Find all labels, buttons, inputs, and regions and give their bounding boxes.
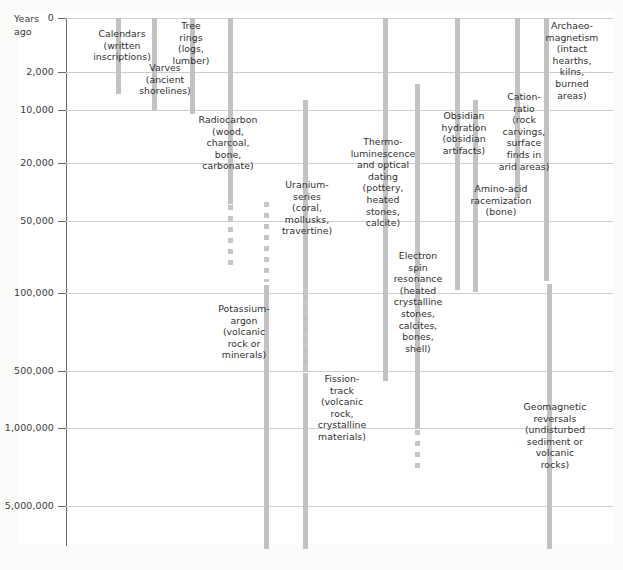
- gridline: [66, 506, 613, 507]
- method-label-line: Geomagnetic: [506, 401, 604, 413]
- method-label-line: Electron: [378, 250, 458, 262]
- y-tick-label: 20,000: [2, 158, 54, 168]
- tick-mark: [58, 18, 66, 19]
- method-label-line: mollusks,: [268, 214, 346, 226]
- method-label-line: calcite): [340, 217, 426, 229]
- method-label-line: (undisturbed: [506, 424, 604, 436]
- y-axis-line: [66, 18, 67, 546]
- method-label-line: (coral,: [268, 202, 346, 214]
- y-axis-title-line2: ago: [14, 26, 39, 39]
- method-label-line: calcites,: [378, 320, 458, 332]
- method-label-varves: Varves(ancientshorelines): [126, 62, 204, 97]
- y-tick-label: 0: [2, 13, 54, 23]
- method-label-line: stones,: [378, 308, 458, 320]
- bar-radiocarbon: [228, 18, 233, 204]
- method-label-line: (volcanic: [300, 396, 384, 408]
- tick-mark: [58, 110, 66, 111]
- method-label-line: (intact: [532, 43, 612, 55]
- method-label-line: (volcanic: [200, 326, 288, 338]
- method-label-line: hearths,: [532, 55, 612, 67]
- tick-mark: [58, 371, 66, 372]
- method-label-line: (pottery,: [340, 182, 426, 194]
- method-label-line: burned: [532, 78, 612, 90]
- bar-dashed-electron-spin-resonance: [415, 430, 420, 470]
- method-label-line: surface: [487, 137, 561, 149]
- method-label-tree-rings: Treerings(logs,lumber): [166, 20, 216, 66]
- method-label-cation-ratio: Cation-ratio(rockcarvings,surfacefinds i…: [487, 91, 561, 172]
- method-label-line: (logs,: [166, 43, 216, 55]
- method-label-amino-acid-racemization: Amino-acidracemization(bone): [452, 183, 550, 218]
- chart-plot-area: Years ago 02,00010,00020,00050,000100,00…: [0, 0, 623, 570]
- y-tick-label: 2,000: [2, 67, 54, 77]
- method-label-line: crystalline: [378, 296, 458, 308]
- y-tick-label: 500,000: [2, 366, 54, 376]
- bar-dashed-fission-track: [303, 288, 308, 372]
- method-label-line: travertine): [268, 225, 346, 237]
- method-label-line: (wood,: [180, 126, 276, 138]
- method-label-electron-spin-resonance: Electronspinresonance(heatedcrystallines…: [378, 250, 458, 354]
- bar-dashed-radiocarbon: [228, 205, 233, 266]
- tick-mark: [58, 428, 66, 429]
- method-label-line: heated: [340, 194, 426, 206]
- method-label-line: Archaeo-: [532, 20, 612, 32]
- method-label-line: argon: [200, 315, 288, 327]
- tick-mark: [58, 506, 66, 507]
- method-label-line: Radiocarbon: [180, 114, 276, 126]
- method-label-line: rock or: [200, 338, 288, 350]
- y-tick-label: 1,000,000: [2, 423, 54, 433]
- tick-mark: [58, 72, 66, 73]
- method-label-line: rocks): [506, 459, 604, 471]
- method-label-line: carvings,: [487, 126, 561, 138]
- gridline: [66, 18, 613, 19]
- method-label-line: volcanic: [506, 447, 604, 459]
- method-label-line: minerals): [200, 349, 288, 361]
- method-label-line: spin: [378, 262, 458, 274]
- method-label-potassium-argon: Potassium-argon(volcanicrock orminerals): [200, 303, 288, 361]
- method-label-calendars: Calendars(writteninscriptions): [78, 28, 166, 63]
- method-label-line: Tree: [166, 20, 216, 32]
- method-label-line: resonance: [378, 273, 458, 285]
- method-label-line: rings: [166, 32, 216, 44]
- gridline: [66, 293, 613, 294]
- method-label-line: stones,: [340, 206, 426, 218]
- method-label-line: lumber): [166, 55, 216, 67]
- method-label-geomagnetic-reversals: Geomagneticreversals(undisturbedsediment…: [506, 401, 604, 471]
- y-tick-label: 5,000,000: [2, 501, 54, 511]
- method-label-line: (ancient: [126, 74, 204, 86]
- method-label-line: shell): [378, 343, 458, 355]
- figure-canvas: Years ago 02,00010,00020,00050,000100,00…: [0, 0, 623, 570]
- method-label-line: dating: [340, 171, 426, 183]
- method-label-line: arid areas): [487, 161, 561, 173]
- y-tick-label: 100,000: [2, 288, 54, 298]
- tick-mark: [58, 293, 66, 294]
- method-label-line: ratio: [487, 103, 561, 115]
- method-label-line: (heated: [378, 285, 458, 297]
- method-label-line: crystalline: [300, 419, 384, 431]
- method-label-line: materials): [300, 431, 384, 443]
- method-label-line: shorelines): [126, 85, 204, 97]
- method-label-fission-track: Fission-track(volcanicrock,crystallinema…: [300, 373, 384, 443]
- method-label-radiocarbon: Radiocarbon(wood,charcoal,bone,carbonate…: [180, 114, 276, 172]
- method-label-thermoluminescence: Thermo-luminescenceand opticaldating(pot…: [340, 136, 426, 229]
- method-label-line: reversals: [506, 413, 604, 425]
- gridline: [66, 371, 613, 372]
- method-label-line: magnetism: [532, 32, 612, 44]
- method-label-line: charcoal,: [180, 137, 276, 149]
- tick-mark: [58, 163, 66, 164]
- tick-mark: [58, 221, 66, 222]
- y-tick-label: 10,000: [2, 105, 54, 115]
- method-label-line: Fission-: [300, 373, 384, 385]
- method-label-line: bones,: [378, 331, 458, 343]
- method-label-line: bone,: [180, 149, 276, 161]
- method-label-line: (rock: [487, 114, 561, 126]
- method-label-line: Uranium-: [268, 179, 346, 191]
- method-label-line: luminescence: [340, 148, 426, 160]
- method-label-line: Thermo-: [340, 136, 426, 148]
- method-label-line: racemization: [452, 195, 550, 207]
- method-label-uranium-series: Uranium-series(coral,mollusks,travertine…: [268, 179, 346, 237]
- method-label-line: (written: [78, 40, 166, 52]
- y-tick-label: 50,000: [2, 216, 54, 226]
- method-label-line: rock,: [300, 408, 384, 420]
- method-label-line: carbonate): [180, 160, 276, 172]
- method-label-line: series: [268, 191, 346, 203]
